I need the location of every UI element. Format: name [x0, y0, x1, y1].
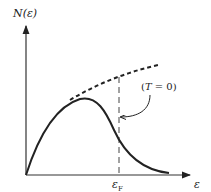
density-of-states-diagram: N(ε) ε εF (T = 0) — [0, 0, 211, 192]
finite-temperature-curve — [26, 98, 169, 175]
fermi-subscript: F — [118, 185, 123, 192]
annotation-rest: = 0) — [152, 81, 177, 92]
annotation-var: T — [145, 81, 152, 92]
y-axis-label: N(ε) — [13, 8, 37, 19]
x-axis-label: ε — [194, 179, 200, 190]
fermi-energy-label: εF — [112, 179, 123, 192]
annotation-arrow — [121, 95, 150, 117]
diagram-graphics — [0, 0, 211, 192]
temperature-annotation: (T = 0) — [141, 82, 177, 92]
